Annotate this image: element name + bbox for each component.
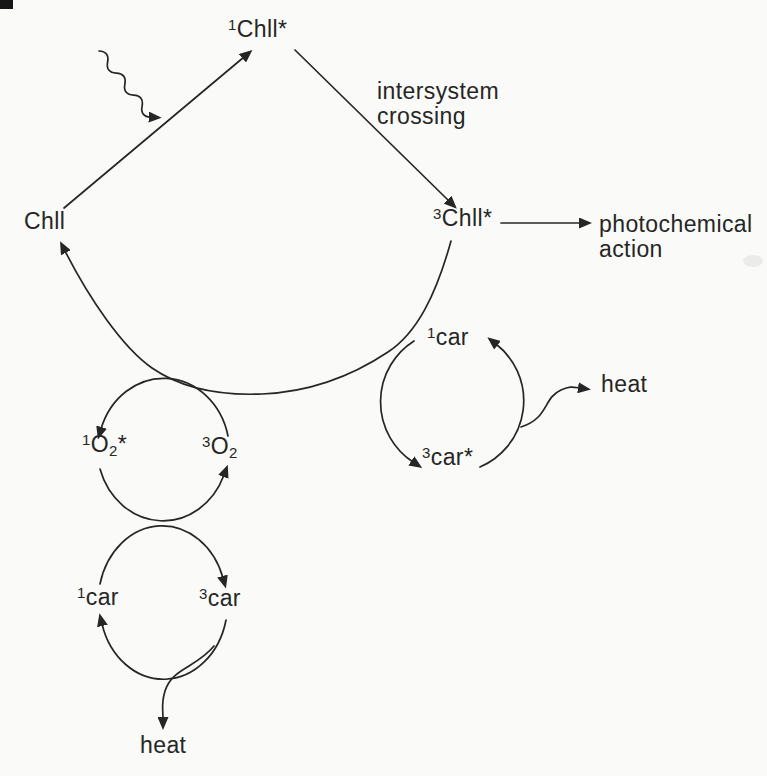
car-cycle-right-descending-arc bbox=[381, 341, 414, 462]
car-cycle-bottom-bottom-arc bbox=[102, 620, 226, 679]
label-o2-singlet: 1O2* bbox=[82, 433, 127, 458]
label-o2-triplet: 3O2 bbox=[202, 435, 238, 460]
heat-arrow-right bbox=[521, 387, 580, 427]
label-car-singlet-bottom: 1car bbox=[77, 586, 119, 611]
label-heat-right: heat bbox=[601, 373, 647, 396]
label-chl-ground: Chll bbox=[24, 210, 65, 235]
heat-arrow-bottom bbox=[163, 646, 215, 719]
label-car-triplet-right: 3car* bbox=[422, 446, 473, 471]
label-photochemical-action: photochemical action bbox=[599, 212, 753, 262]
diagram-canvas: Chll 1Chll* intersystem crossing 3Chll* … bbox=[0, 0, 767, 776]
label-intersystem-crossing: intersystem crossing bbox=[377, 79, 499, 129]
scan-mark bbox=[0, 0, 13, 9]
label-chl-singlet: 1Chll* bbox=[228, 18, 287, 43]
car-cycle-bottom-top-arc bbox=[100, 526, 223, 584]
triplet-return-arc bbox=[65, 241, 451, 394]
photon-wavy-arrow bbox=[96, 49, 154, 120]
label-car-triplet-bottom: 3car bbox=[199, 587, 241, 612]
o2-cycle-top-arc bbox=[101, 378, 228, 436]
label-heat-bottom: heat bbox=[140, 734, 186, 757]
o2-cycle-bottom-arc bbox=[100, 469, 224, 521]
label-chl-triplet: 3Chll* bbox=[433, 207, 492, 232]
label-car-singlet-right: 1car bbox=[427, 326, 469, 351]
excitation-arrow bbox=[64, 57, 244, 208]
car-cycle-right-ascending-arc bbox=[480, 344, 524, 467]
